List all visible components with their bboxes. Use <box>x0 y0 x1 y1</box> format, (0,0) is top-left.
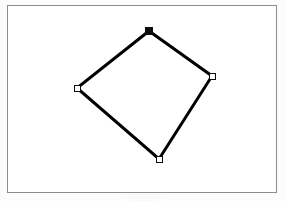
drawing-canvas[interactable] <box>0 0 285 201</box>
vertex-handle-top[interactable] <box>145 27 153 35</box>
vertex-handle-right[interactable] <box>209 73 216 80</box>
vertex-handle-bottom[interactable] <box>156 156 163 163</box>
quadrilateral-shape[interactable] <box>77 31 212 159</box>
app-root <box>0 0 285 201</box>
vertex-handle-left[interactable] <box>74 85 81 92</box>
